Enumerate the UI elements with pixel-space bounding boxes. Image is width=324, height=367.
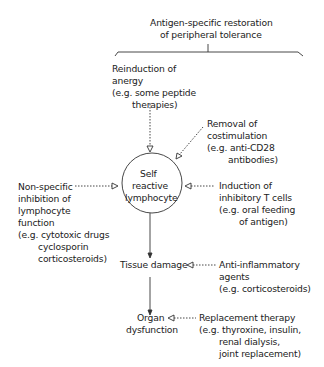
replacement-l3: renal dialysis,	[219, 336, 280, 348]
nonspecific-l3: lymphocyte	[18, 205, 70, 217]
center-l1: Self	[140, 168, 157, 180]
inhibitory-l3: (e.g. oral feeding	[219, 204, 295, 216]
organ-l1: Organ	[137, 312, 164, 324]
nonspecific-l6: cyclosporin	[38, 241, 88, 253]
inhibitory-l2: inhibitory T cells	[219, 192, 292, 204]
nonspecific-l4: function	[18, 217, 54, 229]
anergy-l1: Reinduction of	[112, 63, 176, 75]
inhibitory-l4: of antigen)	[239, 216, 288, 228]
center-l2: reactive	[132, 180, 168, 192]
tissue-damage: Tissue damage	[120, 259, 187, 271]
nonspecific-l2: inhibition of	[18, 193, 71, 205]
costim-l2: costimulation	[207, 130, 267, 142]
nonspecific-l5: (e.g. cytotoxic drugs	[18, 229, 109, 241]
nonspecific-l7: corticosteroids)	[38, 253, 107, 265]
anergy-l4: therapies)	[132, 99, 177, 111]
replacement-l4: joint replacement)	[219, 348, 301, 360]
antiinfl-l2: agents	[219, 271, 249, 283]
organ-l2: dysfunction	[126, 324, 178, 336]
antiinfl-l1: Anti-inflammatory	[219, 259, 300, 271]
costim-l3: (e.g. anti-CD28	[207, 142, 275, 154]
replacement-l1: Replacement therapy	[199, 312, 295, 324]
title-line2: of peripheral tolerance	[160, 29, 262, 41]
tolerance-diagram: Antigen-specific restoration of peripher…	[0, 0, 324, 367]
bracket	[115, 52, 303, 56]
anergy-l2: anergy	[112, 75, 143, 87]
title-line1: Antigen-specific restoration	[150, 17, 273, 29]
center-l3: lymphocyte	[125, 192, 177, 204]
costim-l1: Removal of	[207, 118, 257, 130]
nonspecific-l1: Non-specific	[18, 181, 73, 193]
anergy-l3: (e.g. some peptide	[112, 87, 196, 99]
antiinfl-l3: (e.g. corticosteroids)	[219, 283, 311, 295]
costim-l4: antibodies)	[228, 154, 278, 166]
inhibitory-l1: Induction of	[219, 180, 272, 192]
replacement-l2: (e.g. thyroxine, insulin,	[199, 324, 301, 336]
